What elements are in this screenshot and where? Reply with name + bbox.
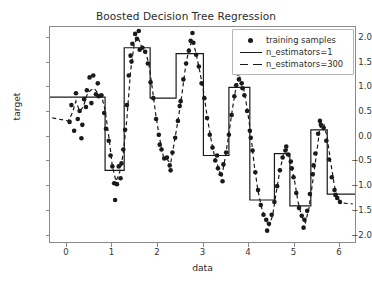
data-point	[170, 150, 175, 155]
x-tick-label: 3	[188, 247, 218, 257]
data-point	[104, 127, 109, 132]
data-point	[202, 96, 207, 101]
data-point	[167, 163, 172, 168]
x-axis-label: data	[49, 262, 356, 273]
y-tick-label: −1.5	[328, 205, 372, 215]
chart-title: Boosted Decision Tree Regression	[0, 10, 372, 22]
x-tick-label: 6	[324, 247, 354, 257]
data-point	[151, 96, 156, 101]
y-tick-mark	[46, 37, 50, 38]
x-tick-label: 1	[96, 247, 126, 257]
data-point	[318, 119, 323, 124]
data-point	[316, 131, 321, 136]
x-tick-mark	[203, 243, 204, 247]
data-point	[237, 77, 242, 82]
data-point	[121, 147, 126, 152]
data-point	[245, 109, 250, 114]
y-tick-label: 1.0	[328, 81, 372, 91]
data-point	[240, 86, 245, 91]
data-point	[305, 209, 310, 214]
data-point	[216, 166, 221, 171]
data-point	[176, 119, 181, 124]
data-point	[250, 148, 255, 153]
data-point	[119, 161, 124, 166]
data-point	[301, 225, 306, 230]
data-point	[278, 168, 283, 173]
data-point	[133, 32, 138, 37]
data-point	[333, 193, 338, 198]
data-point	[227, 132, 232, 137]
data-point	[80, 123, 85, 128]
data-point	[159, 147, 164, 152]
data-point	[205, 116, 210, 121]
scatter-marker-icon	[238, 34, 264, 46]
data-point	[283, 148, 288, 153]
data-point	[239, 81, 244, 86]
data-point	[224, 150, 229, 155]
data-point	[89, 101, 94, 106]
data-point	[69, 103, 74, 108]
data-point	[74, 91, 79, 96]
data-point	[168, 168, 173, 173]
data-point	[140, 45, 145, 50]
data-point	[135, 37, 140, 42]
data-point	[84, 105, 89, 110]
matplotlib-figure: Boosted Decision Tree Regression target …	[0, 0, 372, 291]
data-point	[264, 217, 269, 222]
data-point	[321, 126, 326, 131]
x-tick-mark	[294, 243, 295, 247]
x-tick-label: 4	[233, 247, 263, 257]
data-point	[125, 103, 130, 108]
data-point	[113, 198, 118, 203]
data-point	[165, 155, 170, 160]
data-point	[190, 31, 195, 36]
x-tick-label: 2	[142, 247, 172, 257]
data-point	[157, 142, 162, 147]
data-point	[311, 163, 316, 168]
data-point	[242, 93, 247, 98]
y-tick-label: 0.5	[328, 106, 372, 116]
data-point	[275, 184, 280, 189]
x-tick-mark	[111, 243, 112, 247]
data-point	[207, 132, 212, 137]
data-point	[284, 144, 289, 149]
data-point	[173, 135, 178, 140]
data-point	[289, 159, 294, 164]
x-tick-mark	[66, 243, 67, 247]
data-point	[248, 135, 253, 140]
data-point	[220, 179, 225, 184]
data-point	[248, 128, 253, 133]
data-point	[272, 200, 277, 205]
data-point	[157, 132, 162, 137]
legend-label-n-estimators-1: n_estimators=1	[264, 47, 332, 57]
dashed-line-icon	[238, 58, 264, 70]
data-point	[197, 64, 202, 69]
data-point	[218, 172, 223, 177]
data-point	[96, 81, 101, 86]
data-point	[129, 59, 134, 64]
x-tick-mark	[157, 243, 158, 247]
data-point	[187, 48, 192, 53]
data-point	[106, 138, 111, 143]
y-tick-label: −1.0	[328, 180, 372, 190]
data-point	[267, 221, 272, 226]
y-tick-label: −2.0	[328, 230, 372, 240]
y-tick-mark	[46, 235, 50, 236]
data-point	[123, 128, 128, 133]
solid-line-icon	[238, 46, 264, 58]
data-point	[72, 128, 77, 133]
data-point	[194, 52, 199, 57]
data-point	[313, 151, 318, 156]
data-point	[302, 217, 307, 222]
data-point	[82, 97, 87, 102]
data-point	[75, 117, 80, 122]
data-point	[308, 192, 313, 197]
data-point	[181, 77, 186, 82]
data-point	[184, 61, 189, 66]
data-point	[294, 191, 299, 196]
y-tick-mark	[46, 185, 50, 186]
data-point	[67, 120, 72, 125]
data-point	[199, 81, 204, 86]
data-point	[338, 200, 343, 205]
data-point	[177, 104, 182, 109]
